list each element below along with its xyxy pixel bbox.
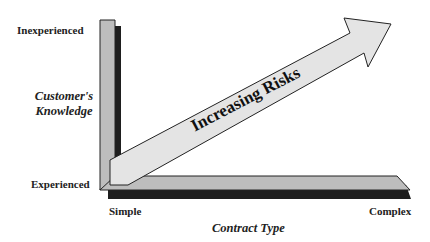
- x-axis-left-label: Simple: [109, 205, 141, 217]
- x-axis-title: Contract Type: [212, 221, 285, 236]
- y-axis-title-line1: Customer's: [24, 89, 104, 104]
- y-axis-title-line2: Knowledge: [24, 104, 104, 119]
- y-axis-title: Customer's Knowledge: [24, 89, 104, 119]
- y-axis-top-label: Inexperienced: [17, 24, 84, 36]
- y-axis-bottom-label: Experienced: [31, 178, 90, 190]
- diagram-canvas: Increasing Risks: [0, 0, 430, 242]
- x-axis-bar: [100, 176, 410, 190]
- x-axis-right-label: Complex: [369, 205, 411, 217]
- arrow-label: Increasing Risks: [188, 63, 304, 136]
